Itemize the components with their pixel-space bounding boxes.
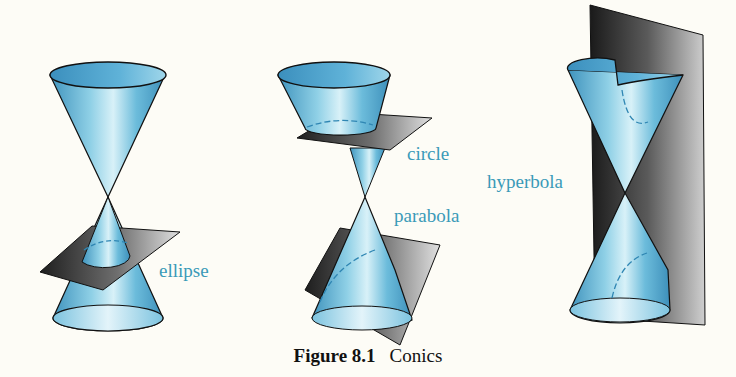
ellipse-cone — [40, 62, 180, 331]
conics-figure — [0, 0, 736, 377]
circle-parabola-cone — [278, 62, 440, 345]
figure-number: Figure 8.1 — [294, 345, 376, 366]
label-ellipse: ellipse — [159, 260, 209, 282]
figure-caption: Figure 8.1Conics — [0, 345, 736, 367]
label-parabola: parabola — [394, 205, 459, 227]
label-hyperbola: hyperbola — [487, 171, 563, 193]
label-circle: circle — [407, 143, 449, 165]
hyperbola-cone — [567, 5, 705, 325]
figure-title: Conics — [390, 345, 443, 366]
